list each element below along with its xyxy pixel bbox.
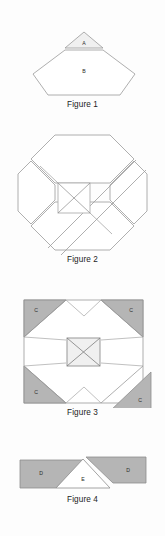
figure-4-drawing: D E D [0, 455, 165, 495]
triangle-a-label: A [82, 40, 86, 46]
figure-1-caption: Figure 1 [0, 100, 165, 110]
quad-d-left-label: D [39, 470, 43, 476]
figure-3-drawing: C C C C [0, 288, 165, 408]
corner-triangle-top-left-label: C [34, 307, 38, 313]
figure-2-drawing [0, 130, 165, 255]
figure-3-block: C C C C [0, 288, 165, 418]
triangle-e-label: E [81, 476, 85, 482]
quad-d-right-label: D [126, 467, 130, 473]
figure-1-block: A B Figure 1 [0, 22, 165, 110]
hexagon-b-label: B [82, 68, 86, 74]
figure-2-caption: Figure 2 [0, 255, 165, 265]
figure-sheet: A B Figure 1 [0, 0, 165, 536]
corner-triangle-bottom-left-label: C [34, 389, 38, 395]
corner-triangle-top-right-label: C [129, 307, 133, 313]
figure-1-drawing: A B [0, 22, 165, 100]
figure-2-block: Figure 2 [0, 130, 165, 265]
figure-4-block: D E D Figure 4 [0, 455, 165, 505]
figure-3-caption: Figure 3 [0, 408, 165, 418]
corner-triangle-bottom-right-label: C [138, 397, 142, 403]
figure-4-caption: Figure 4 [0, 495, 165, 505]
flap-top [31, 135, 134, 183]
